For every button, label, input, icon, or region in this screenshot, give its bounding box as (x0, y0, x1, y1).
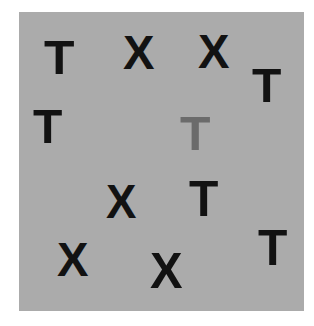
t-letter: T (252, 61, 281, 110)
t-letter: T (189, 174, 218, 224)
t-letter-target: T (180, 109, 210, 158)
t-letter: T (258, 223, 287, 273)
stimulus-panel: TXXTTTXTXXT (19, 12, 304, 311)
x-letter: X (198, 27, 230, 76)
x-letter: X (106, 177, 136, 226)
t-letter: T (44, 33, 74, 82)
x-letter: X (57, 235, 89, 284)
x-letter: X (150, 246, 183, 296)
x-letter: X (123, 28, 155, 77)
t-letter: T (33, 102, 62, 151)
